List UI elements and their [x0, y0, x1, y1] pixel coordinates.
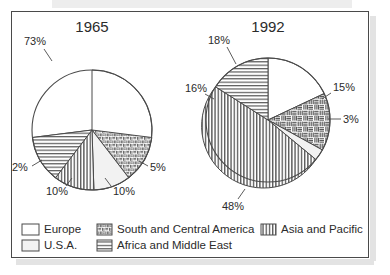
pie-chart-1965: 1965 73% 2% 10% 10% 5%: [12, 18, 166, 197]
legend-label-asia-pacific: Asia and Pacific: [281, 223, 363, 235]
leader-1992-europe: [227, 47, 236, 64]
label-1965-asia-pacific: 10%: [46, 185, 68, 197]
label-1965-south-central-america: 5%: [150, 161, 166, 173]
legend-swatch-usa: [22, 240, 39, 251]
label-1965-africa-middle-east: 2%: [12, 161, 28, 173]
label-1992-africa-middle-east: 16%: [185, 82, 207, 94]
leader-1965-europe: [44, 49, 52, 61]
pie-chart-1992: 1992 18% 16% 15% 3% 48%: [185, 18, 359, 212]
pie-charts-figure: 1965 73% 2% 10% 10% 5% 1992: [0, 0, 390, 275]
leader-1992-asia: [238, 189, 245, 199]
chart-title-1992: 1992: [251, 18, 284, 35]
label-1992-asia-pacific: 48%: [222, 200, 244, 212]
label-1992-usa: 3%: [343, 113, 359, 125]
label-1965-europe: 73%: [24, 35, 46, 47]
legend-label-south-central-america: South and Central America: [117, 223, 255, 235]
legend-label-usa: U.S.A.: [44, 239, 77, 251]
legend-swatch-europe: [22, 224, 39, 235]
chart-title-1965: 1965: [75, 18, 108, 35]
legend-label-europe: Europe: [44, 223, 81, 235]
legend-label-africa-middle-east: Africa and Middle East: [117, 239, 233, 251]
label-1992-europe: 18%: [208, 34, 230, 46]
leader-1965-africa: [32, 160, 42, 166]
label-1992-south-central-america: 15%: [333, 81, 355, 93]
legend: Europe U.S.A. South and Central America …: [22, 223, 363, 251]
legend-swatch-asia-pacific: [261, 224, 276, 235]
legend-swatch-south-central-america: [97, 224, 112, 235]
label-1965-usa: 10%: [113, 185, 135, 197]
legend-swatch-africa-middle-east: [97, 240, 112, 251]
